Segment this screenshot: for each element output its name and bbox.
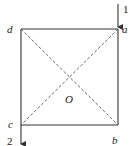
vertex-a-label: a: [122, 23, 128, 35]
square-circuit-diagram: 1 2 d a c b O: [0, 0, 133, 146]
vertex-d-label: d: [7, 23, 13, 35]
center-label: O: [65, 93, 73, 105]
vertex-c-label: c: [8, 118, 13, 130]
diagonals: [21, 29, 118, 125]
terminal-1-label: 1: [123, 3, 129, 15]
terminal-2-label: 2: [7, 135, 13, 146]
vertex-b-label: b: [112, 134, 118, 146]
